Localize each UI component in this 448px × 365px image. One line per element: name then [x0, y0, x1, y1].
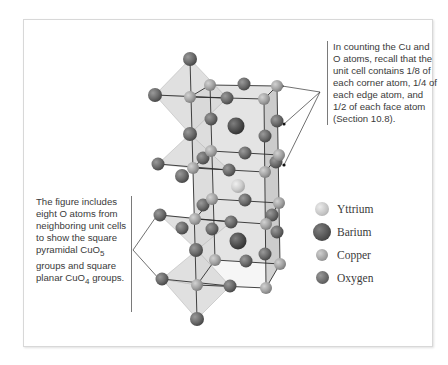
note-neighboring-oxygen: The figure includes eight O atoms from n…	[36, 196, 138, 288]
callout-rule	[131, 196, 132, 312]
legend-label: Barium	[337, 226, 372, 238]
copper-swatch-icon	[316, 249, 328, 261]
legend-item-oxygen: Oxygen	[315, 266, 373, 289]
legend-label: Oxygen	[337, 272, 373, 284]
subscript: 5	[100, 249, 104, 258]
yttrium-atom	[231, 179, 245, 193]
barium-swatch-icon	[313, 223, 331, 241]
legend-label: Copper	[337, 249, 371, 261]
note-neighboring-oxygen-text: The figure includes eight O atoms from n…	[36, 196, 134, 288]
yttrium-swatch-icon	[315, 202, 329, 216]
legend: Yttrium Barium Copper Oxygen	[315, 197, 373, 289]
note-text-part: groups.	[90, 272, 125, 283]
note-text-part: The figure includes eight O atoms from n…	[36, 196, 126, 255]
legend-item-copper: Copper	[315, 243, 373, 266]
oxygen-swatch-icon	[316, 271, 329, 284]
legend-item-barium: Barium	[315, 220, 373, 243]
legend-item-yttrium: Yttrium	[315, 197, 373, 220]
legend-label: Yttrium	[337, 203, 373, 215]
note-counting-atoms-text: In counting the Cu and O atoms, recall t…	[333, 41, 439, 125]
note-counting-atoms: In counting the Cu and O atoms, recall t…	[327, 41, 439, 125]
